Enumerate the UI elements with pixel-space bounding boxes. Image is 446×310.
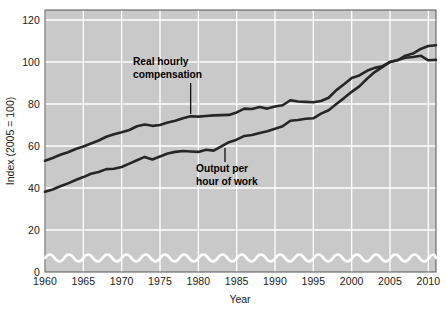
annotation-output-per-hour-line1: Output per xyxy=(196,163,248,174)
x-tick-label-1990: 1990 xyxy=(263,275,287,287)
line-chart: Real hourly compensation Output per hour… xyxy=(0,0,446,310)
x-tick-label-2000: 2000 xyxy=(340,275,364,287)
y-tick-label-100: 100 xyxy=(22,56,40,68)
y-axis-tick-labels: 020406080100120 xyxy=(22,14,40,278)
y-tick-label-40: 40 xyxy=(28,182,40,194)
x-tick-label-2010: 2010 xyxy=(416,275,440,287)
x-tick-label-1975: 1975 xyxy=(148,275,172,287)
annotation-real-hourly-compensation-line1: Real hourly xyxy=(133,56,189,67)
annotation-real-hourly-compensation-line2: compensation xyxy=(133,69,202,80)
x-tick-label-1985: 1985 xyxy=(225,275,249,287)
plot-area-background xyxy=(45,10,436,272)
x-tick-label-1970: 1970 xyxy=(110,275,134,287)
x-axis-title: Year xyxy=(229,293,251,305)
x-tick-label-1980: 1980 xyxy=(186,275,210,287)
y-tick-label-20: 20 xyxy=(28,224,40,236)
y-axis-title: Index (2005 = 100) xyxy=(4,97,16,185)
x-tick-label-1995: 1995 xyxy=(301,275,325,287)
x-axis-tick-labels: 1960196519701975198019851990199520002005… xyxy=(33,275,440,287)
annotation-output-per-hour-line2: hour of work xyxy=(196,176,258,187)
chart-figure: Real hourly compensation Output per hour… xyxy=(0,0,446,310)
y-tick-label-80: 80 xyxy=(28,98,40,110)
y-tick-label-120: 120 xyxy=(22,14,40,26)
x-tick-label-1965: 1965 xyxy=(71,275,95,287)
x-tick-label-2005: 2005 xyxy=(378,275,402,287)
x-tick-label-1960: 1960 xyxy=(33,275,57,287)
y-tick-label-60: 60 xyxy=(28,140,40,152)
